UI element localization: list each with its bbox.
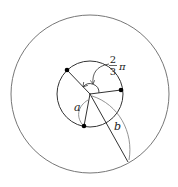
radius-bottom — [84, 94, 90, 126]
label-b: b — [114, 120, 121, 133]
point-right — [119, 88, 124, 93]
angle-label-denominator: 3 — [110, 66, 116, 77]
angle-leader — [93, 64, 109, 84]
point-bottom — [82, 124, 87, 129]
radius-right — [90, 90, 121, 94]
angle-label-numerator: 2 — [110, 54, 116, 65]
diagram-canvas: 2 3 π a b — [0, 0, 178, 187]
label-a: a — [74, 101, 81, 114]
segment-b — [90, 94, 128, 162]
center-point — [89, 93, 91, 95]
angle-arc — [83, 84, 99, 93]
point-upper-left — [65, 68, 70, 73]
angle-label-pi: π — [118, 61, 126, 72]
radius-upper-left — [67, 70, 90, 94]
arc-b — [92, 96, 130, 160]
